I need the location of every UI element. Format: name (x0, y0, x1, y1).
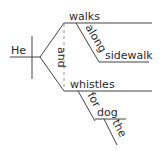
sentence-diagram: He and walks along sidewalk whistles for… (0, 0, 162, 151)
subject-word: He (11, 44, 26, 57)
object-2-word: dog (97, 106, 118, 119)
predicate-2-verb: whistles (70, 78, 115, 91)
conjunction-word: and (55, 47, 68, 68)
object-1-word: sidewalk (105, 49, 153, 62)
predicate-1-verb: walks (69, 10, 100, 23)
